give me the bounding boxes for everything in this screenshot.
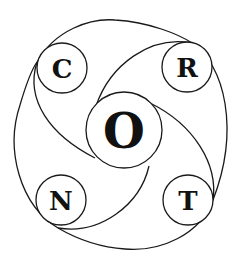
center-node-o: O: [86, 92, 162, 168]
node-label-t: T: [178, 186, 198, 216]
cront-diagram: O C R N T: [0, 0, 251, 264]
node-c: C: [37, 43, 87, 93]
node-t: T: [163, 175, 213, 225]
node-r: R: [162, 42, 212, 92]
node-label-c: C: [52, 54, 73, 84]
node-label-r: R: [176, 53, 198, 83]
node-n: N: [36, 175, 86, 225]
center-label: O: [103, 103, 145, 159]
node-label-n: N: [49, 186, 73, 216]
